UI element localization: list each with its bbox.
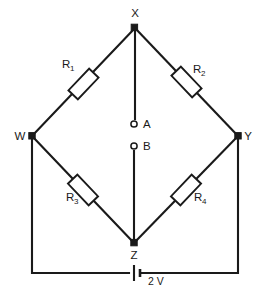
battery-symbol bbox=[134, 265, 140, 281]
wire-battery-to-y bbox=[141, 136, 238, 273]
resistor-body-r1 bbox=[68, 69, 98, 100]
resistor-subscript-r3: 3 bbox=[74, 197, 79, 206]
node-label-x: X bbox=[131, 7, 139, 19]
node-label-z: Z bbox=[130, 249, 137, 261]
node-label-w: W bbox=[15, 130, 26, 142]
resistor-subscript-r2: 2 bbox=[201, 69, 206, 78]
resistor-subscript-r1: 1 bbox=[70, 64, 75, 73]
terminal-circle-a bbox=[131, 121, 137, 127]
resistor-label-r2: R 2 bbox=[193, 63, 206, 78]
node-dot-x bbox=[131, 24, 137, 30]
node-label-y: Y bbox=[244, 130, 252, 142]
node-dot-z bbox=[131, 239, 137, 245]
circuit-diagram-figure: X W Y Z A B R 1 R 2 R 3 R 4 2 V bbox=[0, 0, 258, 302]
terminal-label-b: B bbox=[143, 140, 151, 152]
battery-voltage-label: 2 V bbox=[148, 275, 164, 287]
terminal-label-a: A bbox=[143, 118, 151, 130]
circuit-diagram-svg: X W Y Z A B R 1 R 2 R 3 R 4 2 V bbox=[0, 0, 258, 302]
resistor-label-r4: R 4 bbox=[194, 191, 207, 206]
wire-w-to-battery bbox=[32, 136, 129, 273]
resistor-label-r1: R 1 bbox=[62, 58, 75, 73]
node-dot-y bbox=[235, 133, 241, 139]
node-dot-w bbox=[29, 133, 35, 139]
terminal-circle-b bbox=[131, 143, 137, 149]
resistor-subscript-r4: 4 bbox=[202, 197, 207, 206]
